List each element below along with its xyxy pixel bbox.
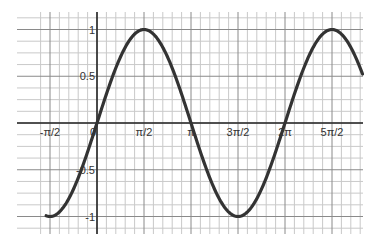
y-tick-label: 0.5 [80,70,95,82]
x-tick-label: π/2 [136,126,153,138]
x-tick-label: 2π [278,126,292,138]
y-tick-label: -1 [85,211,95,223]
x-tick-label: 5π/2 [321,126,344,138]
x-tick-label: -π/2 [40,126,60,138]
sine-chart: -π/20π/2π3π/22π5π/2 10.5-0.5-1 [0,0,378,246]
x-tick-label: 0 [90,126,96,138]
y-tick-label: 1 [89,24,95,36]
x-tick-labels: -π/20π/2π3π/22π5π/2 [40,126,344,138]
x-tick-label: π [187,126,195,138]
x-tick-label: 3π/2 [227,126,250,138]
y-tick-label: -0.5 [76,164,95,176]
